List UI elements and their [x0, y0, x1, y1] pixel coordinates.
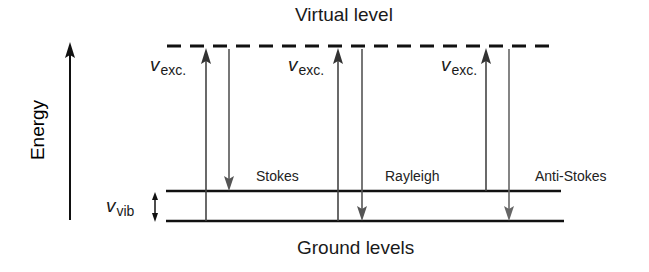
vib-subscript: vib: [117, 203, 135, 219]
stokes-label: Stokes: [256, 168, 299, 184]
diagram-canvas: [0, 0, 649, 272]
vib-symbol: v: [106, 195, 116, 216]
excitation-subscript: exc.: [299, 62, 325, 78]
rayleigh-label: Rayleigh: [385, 168, 439, 184]
vib-double-arrow: [152, 192, 158, 222]
excitation-subscript: exc.: [161, 62, 187, 78]
ground-levels-label: Ground levels: [297, 237, 414, 259]
anti-stokes-emission-arrow: [504, 49, 514, 221]
anti-stokes-excitation-label: vexc.: [441, 54, 477, 78]
rayleigh-excitation-arrow: [333, 48, 343, 221]
vib-gap-label: vvib: [106, 195, 134, 219]
energy-axis-arrow: [65, 42, 75, 220]
stokes-excitation-arrow: [201, 48, 211, 221]
excitation-symbol: v: [288, 54, 298, 75]
stokes-excitation-label: vexc.: [150, 54, 186, 78]
excitation-symbol: v: [150, 54, 160, 75]
excitation-subscript: exc.: [452, 62, 478, 78]
anti-stokes-label: Anti-Stokes: [535, 168, 607, 184]
energy-axis-label: Energy: [27, 98, 49, 162]
excitation-symbol: v: [441, 54, 451, 75]
virtual-level-label: Virtual level: [295, 4, 393, 26]
rayleigh-excitation-label: vexc.: [288, 54, 324, 78]
anti-stokes-excitation-arrow: [481, 48, 491, 191]
rayleigh-emission-arrow: [357, 49, 367, 221]
stokes-emission-arrow: [224, 49, 234, 191]
